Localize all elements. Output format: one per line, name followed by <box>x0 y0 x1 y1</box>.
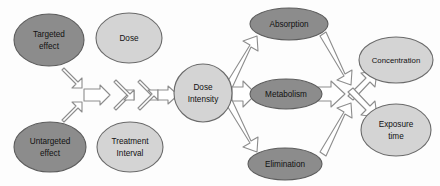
diagram-svg: Targeted effect Dose Untargeted effect T… <box>0 0 440 186</box>
arrow-absorption-to-junction <box>320 32 352 85</box>
node-absorption[interactable]: Absorption <box>250 8 328 40</box>
node-elimination[interactable]: Elimination <box>248 148 322 180</box>
arrow-targeted-to-merge <box>62 68 82 88</box>
node-metabolism[interactable]: Metabolism <box>250 79 322 109</box>
diagram-canvas: Targeted effect Dose Untargeted effect T… <box>0 0 440 186</box>
node-targeted-effect[interactable]: Targeted effect <box>14 14 84 66</box>
node-treatment-interval[interactable]: Treatment Interval <box>97 122 163 172</box>
node-concentration[interactable]: Concentration <box>359 37 433 83</box>
node-dose[interactable]: Dose <box>96 13 162 63</box>
arrow-elimination-to-junction <box>320 103 352 156</box>
arrow-untargeted-to-merge <box>62 102 82 122</box>
arrow-intensity-to-absorption <box>226 36 258 88</box>
arrow-left-merge-to-hub <box>84 85 110 105</box>
arrow-intensity-to-elimination <box>226 100 258 152</box>
node-layer: Targeted effect Dose Untargeted effect T… <box>14 8 433 180</box>
node-dose-intensity[interactable]: Dose Intensity <box>174 64 232 122</box>
node-untargeted-effect[interactable]: Untargeted effect <box>14 122 86 172</box>
node-exposure-time[interactable]: Exposure time <box>361 104 431 156</box>
